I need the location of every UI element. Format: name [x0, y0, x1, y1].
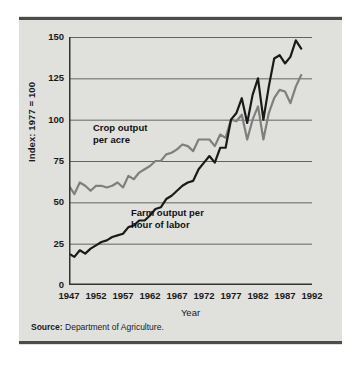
plot-area: Crop output per acre Farm output per hou…	[69, 37, 312, 285]
y-tick-label: 75	[34, 156, 64, 166]
annotation-crop-output: Crop output per acre	[93, 122, 147, 145]
x-tick-label: 1957	[112, 290, 133, 301]
annotation-farm-output: Farm output per hour of labor	[131, 207, 204, 230]
x-tick-label: 1977	[220, 290, 241, 301]
x-tick-label: 1947	[58, 290, 79, 301]
chart-figure: Index: 1977 = 100 0255075100125150 Crop …	[0, 0, 355, 365]
y-tick-label: 125	[34, 73, 64, 83]
chart-svg	[69, 37, 312, 285]
annotation-crop-line2: per acre	[93, 134, 147, 146]
x-tick-label: 1952	[85, 290, 106, 301]
y-tick-label: 100	[34, 115, 64, 125]
bottom-divider-rule	[19, 341, 342, 344]
x-tick-label: 1992	[301, 290, 322, 301]
x-tick-label: 1972	[193, 290, 214, 301]
y-tick-label: 0	[34, 280, 64, 290]
y-tick-label: 25	[34, 239, 64, 249]
x-axis-title: Year	[69, 307, 312, 318]
annotation-farm-line1: Farm output per	[131, 207, 204, 219]
annotation-farm-line2: hour of labor	[131, 219, 204, 231]
source-label: Source:	[31, 322, 63, 332]
y-tick-label: 150	[34, 32, 64, 42]
x-tick-label: 1962	[139, 290, 160, 301]
source-note: Source: Department of Agriculture.	[31, 322, 164, 332]
x-tick-label: 1987	[274, 290, 295, 301]
y-axis-tick-labels: 0255075100125150	[33, 0, 64, 365]
x-tick-label: 1967	[166, 290, 187, 301]
annotation-crop-line1: Crop output	[93, 122, 147, 134]
source-text: Department of Agriculture.	[63, 322, 164, 332]
x-tick-label: 1982	[247, 290, 268, 301]
plot-frame	[69, 37, 312, 285]
x-axis-tick-labels: 1947195219571962196719721977198219871992	[69, 290, 312, 304]
y-tick-label: 50	[34, 197, 64, 207]
top-divider-rule	[19, 17, 342, 20]
